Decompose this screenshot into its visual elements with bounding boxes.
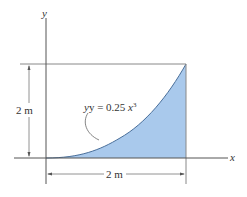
area-under-curve-diagram: x y 2 m 2 m yy = 0.25 x3 [0,0,247,197]
width-arrow-right-icon [180,173,185,176]
width-arrow-left-icon [47,173,52,176]
y-axis-label: y [41,7,47,19]
x-axis-label: x [229,151,235,163]
height-dimension-label: 2 m [16,104,33,116]
equation-leader-line [85,113,99,140]
height-arrow-top-icon [28,65,31,70]
height-arrow-bottom-icon [28,152,31,157]
width-dimension-label: 2 m [106,168,123,180]
curve-equation-label: yy = 0.25 x3 [83,101,137,113]
